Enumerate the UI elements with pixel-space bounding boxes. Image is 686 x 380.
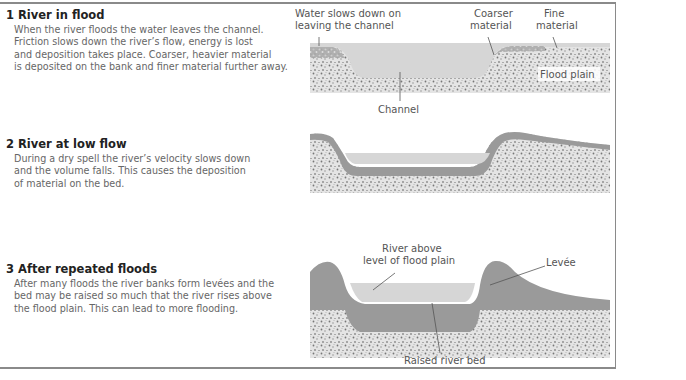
label-fine-material-2: material [536, 20, 578, 31]
diagram-river-in-flood: Water slows down on leaving the channel … [295, 8, 610, 115]
label-levee: Levée [546, 257, 576, 268]
label-channel: Channel [378, 104, 419, 115]
label-river-above-2: level of flood plain [363, 255, 455, 266]
diagram-river-at-low-flow [310, 132, 610, 193]
label-river-above: River above [382, 243, 442, 254]
label-water-slows: Water slows down on [295, 8, 401, 19]
label-raised-river-bed: Raised river bed [404, 355, 486, 366]
label-fine-material: Fine [544, 8, 564, 19]
label-flood-plain: Flood plain [540, 69, 595, 80]
river-cross-section-diagrams: Water slows down on leaving the channel … [0, 0, 686, 380]
diagram-after-repeated-floods: River above level of flood plain Levée R… [310, 243, 610, 366]
label-coarser-material-2: material [470, 20, 512, 31]
label-coarser-material: Coarser [474, 8, 514, 19]
label-water-slows-2: leaving the channel [295, 20, 394, 31]
